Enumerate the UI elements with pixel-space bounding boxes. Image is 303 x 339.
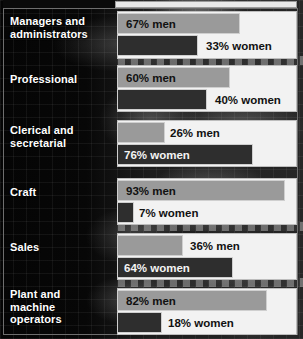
cut-off-top-row: [0, 0, 303, 8]
chart-row: Craft 93% men 7% women: [0, 178, 303, 228]
chart-row: Clerical and secretarial 26% men 76% wom…: [0, 120, 303, 170]
chart-row: Plant and machine operators 82% men 18% …: [0, 288, 303, 338]
women-bar: [117, 89, 207, 110]
women-value-label: 40% women: [215, 93, 281, 107]
row-category-label: Managers and administrators: [10, 15, 114, 40]
row-category-label: Professional: [10, 73, 114, 86]
row-category-label: Sales: [10, 241, 114, 254]
women-value-label: 76% women: [124, 148, 190, 162]
men-value-label: 36% men: [190, 239, 240, 253]
women-bar: [117, 312, 162, 333]
men-value-label: 93% men: [126, 184, 176, 198]
men-bar: [117, 122, 165, 143]
women-value-label: 33% women: [206, 39, 272, 53]
women-value-label: 7% women: [139, 206, 198, 220]
chart-row: Sales 36% men 64% women: [0, 233, 303, 283]
men-value-label: 26% men: [170, 126, 220, 140]
men-value-label: 67% men: [126, 17, 176, 31]
women-bar: [117, 202, 134, 223]
chart-row: Professional 60% men 40% women: [0, 65, 303, 115]
men-bar: [117, 235, 183, 256]
row-category-label: Clerical and secretarial: [10, 124, 114, 149]
men-value-label: 82% men: [126, 294, 176, 308]
women-value-label: 18% women: [168, 316, 234, 330]
chart-row: Managers and administrators 67% men 33% …: [0, 9, 303, 62]
women-value-label: 64% women: [124, 261, 190, 275]
row-category-label: Plant and machine operators: [10, 288, 114, 326]
men-value-label: 60% men: [126, 71, 176, 85]
row-category-label: Craft: [10, 186, 114, 199]
cut-off-bar-panel: [115, 1, 297, 8]
women-bar: [117, 35, 198, 56]
cut-off-label-area: [3, 0, 115, 8]
occupation-gender-split-chart: Managers and administrators 67% men 33% …: [0, 0, 303, 339]
